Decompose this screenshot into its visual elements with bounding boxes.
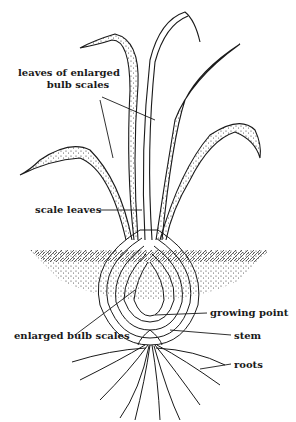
- bulb-diagram: leaves of enlarged bulb scales scale lea…: [0, 0, 296, 422]
- label-stem: stem: [234, 330, 261, 342]
- label-scale-leaves: scale leaves: [35, 204, 101, 216]
- label-roots: roots: [234, 359, 263, 371]
- label-enlarged-bulb-scales: enlarged bulb scales: [14, 330, 130, 342]
- soil: [30, 250, 270, 300]
- roots: [72, 345, 225, 420]
- label-leaves-of-enlarged-bulb-scales: leaves of enlarged bulb scales: [18, 67, 120, 91]
- label-growing-point: growing point: [210, 307, 288, 319]
